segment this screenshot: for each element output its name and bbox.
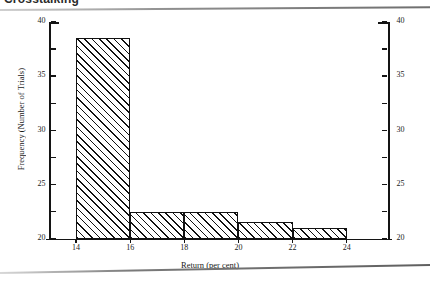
histogram-bar <box>238 222 292 238</box>
y-tick-left-40: 40 <box>51 21 56 22</box>
y-tick-left-5: 5 <box>51 211 56 212</box>
x-tick-label-14: 14 <box>72 244 80 252</box>
x-tick-22 <box>292 239 293 243</box>
y-tick-right-5: 5 <box>382 211 387 212</box>
y-tick-left-15: 15 <box>51 157 56 158</box>
y-tick-label-left-30: 30 <box>38 126 46 134</box>
y-tick-label-left-40: 40 <box>38 17 46 25</box>
x-tick-label-22: 22 <box>289 244 297 252</box>
x-tick-label-16: 16 <box>126 244 134 252</box>
x-tick-label-24: 24 <box>343 244 351 252</box>
y-tick-right-20: 20 <box>382 130 387 131</box>
y-tick-label-right-35: 35 <box>396 71 404 79</box>
y-tick-right-35: 35 <box>382 48 387 49</box>
x-tick-18 <box>184 239 185 243</box>
y-tick-right-25: 25 <box>382 103 387 104</box>
y-tick-left-35: 35 <box>51 48 56 49</box>
x-tick-14 <box>75 239 76 243</box>
y-tick-right-10: 10 <box>382 184 387 185</box>
x-tick-label-20: 20 <box>234 244 242 252</box>
y-tick-label-left-20: 20 <box>38 234 46 242</box>
y-tick-left-30: 30 <box>51 75 56 76</box>
y-tick-right-15: 15 <box>382 157 387 158</box>
histogram-bar <box>130 212 184 239</box>
x-tick-20 <box>238 239 239 243</box>
y-tick-label-right-20: 20 <box>396 234 404 242</box>
x-tick-24 <box>346 239 347 243</box>
y-tick-right-0: 0 <box>382 238 387 239</box>
y-tick-left-10: 10 <box>51 184 56 185</box>
histogram-bar <box>293 228 347 239</box>
y-axis-right-line <box>388 22 390 240</box>
y-tick-right-30: 30 <box>382 75 387 76</box>
y-tick-label-right-25: 25 <box>396 180 404 188</box>
x-tick-16 <box>130 239 131 243</box>
histogram-figure: Frequency (Number of Trials) 05101520253… <box>0 8 430 272</box>
y-tick-label-right-40: 40 <box>396 17 404 25</box>
running-head-text: Crosstalking <box>4 0 79 6</box>
x-tick-label-18: 18 <box>180 244 188 252</box>
y-tick-label-left-35: 35 <box>38 71 46 79</box>
plot-area: 0510152025303540 0510152025303540 141618… <box>49 22 390 240</box>
y-axis-left-line <box>49 22 51 240</box>
y-tick-left-20: 20 <box>51 130 56 131</box>
histogram-bar <box>76 38 130 238</box>
x-axis-line <box>46 239 392 240</box>
y-tick-left-25: 25 <box>51 103 56 104</box>
y-tick-label-left-25: 25 <box>38 180 46 188</box>
y-tick-label-right-30: 30 <box>396 126 404 134</box>
y-tick-left-0: 0 <box>51 238 56 239</box>
y-tick-right-40: 40 <box>382 21 387 22</box>
y-axis-title: Frequency (Number of Trials) <box>16 68 28 170</box>
histogram-bar <box>184 212 238 239</box>
